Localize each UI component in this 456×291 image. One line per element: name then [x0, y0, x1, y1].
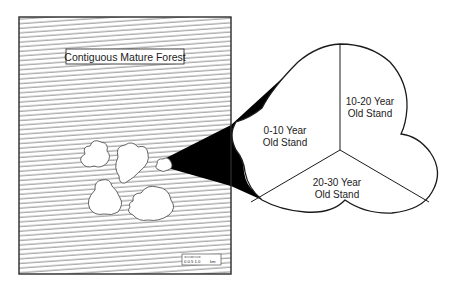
- section-0-10-line1: 0-10 Year: [264, 125, 307, 136]
- section-20-30-line2: Old Stand: [315, 189, 359, 200]
- patch-3-zoomed: [156, 158, 172, 172]
- scale-ticks: 0 0.5 1.0: [184, 259, 201, 264]
- section-10-20-line2: Old Stand: [348, 108, 392, 119]
- enlarged-stand: 0-10 Year Old Stand 10-20 Year Old Stand…: [232, 44, 438, 213]
- scale-unit: km: [210, 259, 216, 264]
- forest-label: Contiguous Mature Forest: [64, 51, 185, 63]
- forest-label-box: Contiguous Mature Forest: [64, 49, 185, 64]
- forest-fragmentation-diagram: Contiguous Mature Forest 0 0.5 1.0 km 0-…: [0, 0, 456, 291]
- section-20-30-line1: 20-30 Year: [313, 177, 362, 188]
- scale-bar: 0 0.5 1.0 km: [182, 254, 221, 265]
- section-0-10: 0-10 Year Old Stand: [263, 125, 307, 148]
- section-10-20-line1: 10-20 Year: [346, 96, 395, 107]
- section-0-10-line2: Old Stand: [263, 137, 307, 148]
- section-20-30: 20-30 Year Old Stand: [313, 177, 362, 200]
- section-10-20: 10-20 Year Old Stand: [346, 96, 395, 119]
